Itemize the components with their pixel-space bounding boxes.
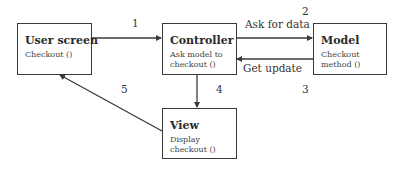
- model-title: Model: [321, 34, 359, 47]
- get-update-label: Get update: [243, 62, 302, 74]
- step-1-label: 1: [132, 17, 139, 29]
- controller-desc-line1: Ask model to: [170, 50, 223, 60]
- user-screen-title: User screen: [25, 34, 98, 47]
- model-desc-line1: Checkout: [321, 50, 360, 60]
- view-desc-line2: checkout (): [170, 145, 216, 155]
- model-box: Model Checkout method (): [313, 23, 387, 75]
- ask-for-data-label: Ask for data: [245, 18, 310, 30]
- controller-desc-line2: checkout (): [170, 60, 223, 70]
- controller-box: Controller Ask model to checkout (): [162, 23, 237, 75]
- user-screen-box: User screen Checkout (): [17, 23, 92, 75]
- view-title: View: [170, 119, 199, 132]
- step-3-label: 3: [302, 83, 309, 95]
- step-5-label: 5: [121, 83, 128, 95]
- view-desc-line1: Display: [170, 135, 216, 145]
- controller-title: Controller: [170, 34, 233, 47]
- view-box: View Display checkout (): [162, 108, 237, 159]
- model-desc-line2: method (): [321, 60, 360, 70]
- arrow-5-view-to-user: [60, 75, 162, 131]
- step-2-label: 2: [302, 5, 309, 17]
- step-4-label: 4: [216, 83, 223, 95]
- user-screen-method: Checkout (): [25, 50, 72, 59]
